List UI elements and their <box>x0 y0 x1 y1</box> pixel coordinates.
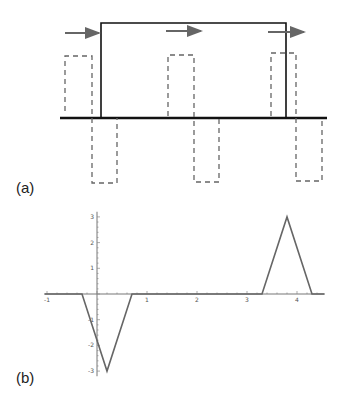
x-tick-label: -1 <box>44 296 50 303</box>
x-tick-label: 2 <box>195 296 199 303</box>
y-tick-label: 1 <box>90 264 94 271</box>
y-tick-label: -2 <box>88 341 94 348</box>
x-tick-label: 3 <box>245 296 249 303</box>
y-tick-label: -3 <box>88 367 94 374</box>
x-tick-label: 1 <box>145 296 149 303</box>
x-tick-label: 4 <box>295 296 299 303</box>
y-tick-label: 3 <box>90 213 94 220</box>
y-tick-label: 2 <box>90 239 94 246</box>
panel-b-chart: -11234-3-2-1123 <box>0 0 343 401</box>
panel-b-label: (b) <box>16 369 34 386</box>
